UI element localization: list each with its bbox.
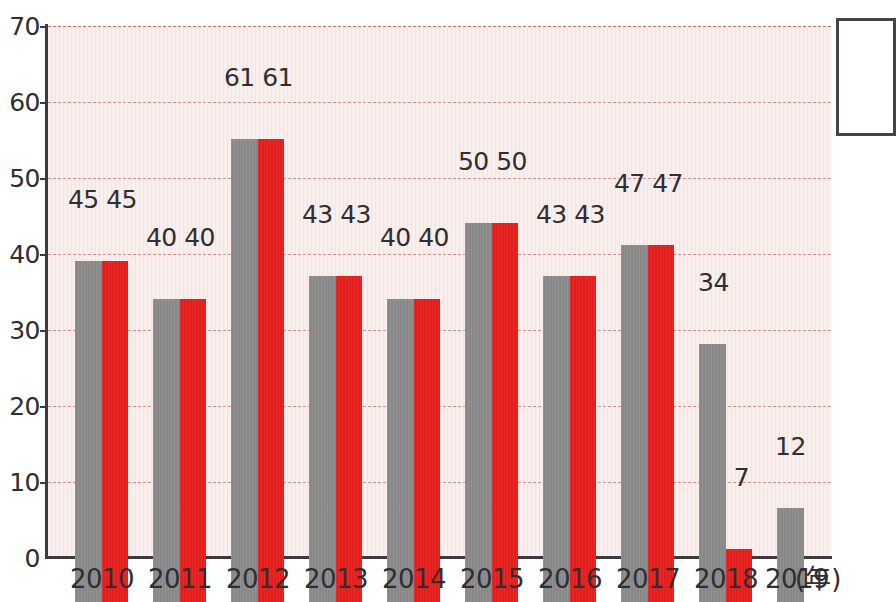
bar-2013-gray[interactable] xyxy=(309,276,336,602)
bar-2014-gray[interactable] xyxy=(387,299,414,602)
x-tick-label-2013: 2013 xyxy=(296,566,376,592)
y-tick-label-20: 20 xyxy=(2,394,40,419)
bar-2014-red[interactable] xyxy=(414,299,440,602)
bar-2015-red[interactable] xyxy=(492,223,518,602)
x-axis-unit-label: (年) xyxy=(795,566,841,592)
gridline-70 xyxy=(48,26,831,27)
bar-2017-gray[interactable] xyxy=(621,245,648,602)
bar-2016-gray[interactable] xyxy=(543,276,570,602)
bar-2010-gray[interactable] xyxy=(75,261,102,602)
bar-2010-red[interactable] xyxy=(102,261,128,602)
bar-label-2012: 61 61 xyxy=(221,65,296,90)
bar-2011-red[interactable] xyxy=(180,299,206,602)
y-tick-label-70: 70 xyxy=(2,14,40,39)
bar-2016-red[interactable] xyxy=(570,276,596,602)
bar-group-2014 xyxy=(387,71,440,602)
x-tick-label-2012: 2012 xyxy=(218,566,298,592)
x-tick-label-2011: 2011 xyxy=(140,566,220,592)
bar-label-2018-gray: 34 xyxy=(676,270,751,295)
y-tick-label-50: 50 xyxy=(2,166,40,191)
x-tick-label-2014: 2014 xyxy=(374,566,454,592)
x-tick-label-2018: 2018 xyxy=(686,566,766,592)
bar-label-2016: 43 43 xyxy=(533,202,608,227)
bar-2011-gray[interactable] xyxy=(153,299,180,602)
y-tick-label-10: 10 xyxy=(2,470,40,495)
bar-label-2019-gray: 12 xyxy=(753,434,828,459)
bar-2015-gray[interactable] xyxy=(465,223,492,602)
bar-label-2014: 40 40 xyxy=(377,225,452,250)
bar-label-2018-red: 7 xyxy=(704,465,779,490)
y-tick-label-0: 0 xyxy=(2,546,40,571)
y-tick-label-40: 40 xyxy=(2,242,40,267)
x-tick-label-2010: 2010 xyxy=(62,566,142,592)
x-tick-label-2015: 2015 xyxy=(452,566,532,592)
bar-2017-red[interactable] xyxy=(648,245,674,602)
bar-group-2018 xyxy=(699,71,752,602)
x-tick-label-2017: 2017 xyxy=(608,566,688,592)
bar-group-2019 xyxy=(777,71,830,602)
bar-label-2013: 43 43 xyxy=(299,202,374,227)
bar-group-2016 xyxy=(543,71,596,602)
legend-box xyxy=(836,18,896,136)
bar-group-2012 xyxy=(231,71,284,602)
bar-label-2017: 47 47 xyxy=(611,171,686,196)
bar-group-2013 xyxy=(309,71,362,602)
bar-2012-gray[interactable] xyxy=(231,139,258,602)
y-tick-label-60: 60 xyxy=(2,90,40,115)
bar-group-2011 xyxy=(153,71,206,602)
bar-2013-red[interactable] xyxy=(336,276,362,602)
bar-group-2017 xyxy=(621,71,674,602)
bar-label-2010: 45 45 xyxy=(65,187,140,212)
bar-group-2010 xyxy=(75,71,128,602)
y-tick-label-30: 30 xyxy=(2,318,40,343)
y-axis-line xyxy=(45,24,48,559)
x-tick-label-2016: 2016 xyxy=(530,566,610,592)
bar-label-2011: 40 40 xyxy=(143,225,218,250)
bar-label-2015: 50 50 xyxy=(455,149,530,174)
bar-2012-red[interactable] xyxy=(258,139,284,602)
